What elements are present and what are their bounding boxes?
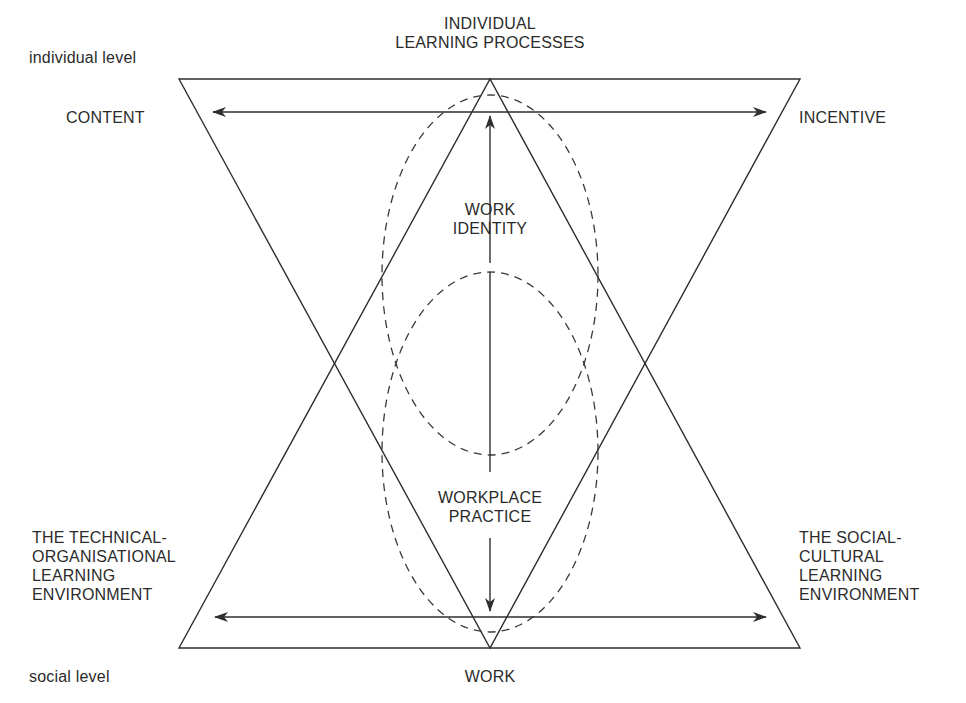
content-label: CONTENT <box>66 108 145 127</box>
technical-organisational-environment-label: THE TECHNICAL- ORGANISATIONAL LEARNING E… <box>32 528 176 604</box>
work-label: WORK <box>440 667 540 686</box>
social-cultural-environment-label: THE SOCIAL- CULTURAL LEARNING ENVIRONMEN… <box>799 528 919 604</box>
incentive-label: INCENTIVE <box>799 108 886 127</box>
work-identity-label: WORK IDENTITY <box>420 200 560 238</box>
workplace-practice-label: WORKPLACE PRACTICE <box>410 488 570 526</box>
individual-learning-processes-label: INDIVIDUAL LEARNING PROCESSES <box>390 14 590 52</box>
individual-level-label: individual level <box>29 48 136 67</box>
social-level-label: social level <box>29 667 110 686</box>
